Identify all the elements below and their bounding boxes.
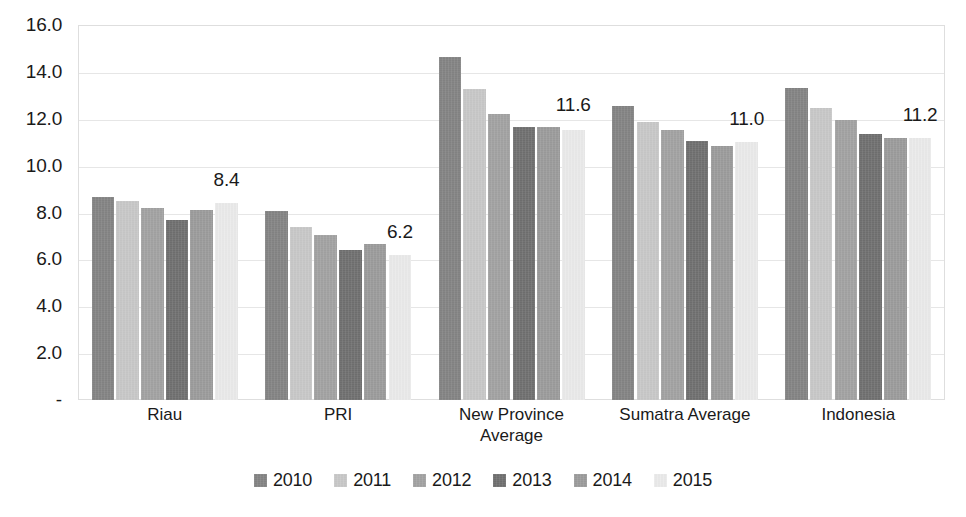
y-axis-tick-label: 10.0 bbox=[0, 155, 62, 177]
bar[interactable] bbox=[116, 201, 139, 400]
legend-item-2014[interactable]: 2014 bbox=[574, 470, 632, 491]
bar-texture bbox=[785, 88, 808, 400]
x-axis-category-label: New Province Average bbox=[437, 404, 587, 447]
bar-texture bbox=[265, 211, 288, 400]
legend-item-2011[interactable]: 2011 bbox=[334, 470, 391, 491]
legend-item-2015[interactable]: 2015 bbox=[654, 470, 712, 491]
bar-texture bbox=[562, 130, 585, 400]
bar-group bbox=[92, 25, 238, 400]
y-axis-tick-label: 6.0 bbox=[0, 248, 62, 270]
bar-texture bbox=[637, 122, 660, 400]
y-axis-tick-label: 16.0 bbox=[0, 14, 62, 36]
bar-chart: -2.04.06.08.010.012.014.016.0 RiauPRINew… bbox=[0, 0, 966, 517]
bar[interactable] bbox=[488, 114, 511, 400]
bar-group bbox=[785, 25, 931, 400]
bar[interactable] bbox=[190, 210, 213, 400]
bar[interactable] bbox=[314, 235, 337, 400]
bar[interactable] bbox=[835, 120, 858, 400]
bar[interactable] bbox=[810, 108, 833, 400]
bar[interactable] bbox=[785, 88, 808, 400]
x-axis-category-label: Indonesia bbox=[783, 404, 933, 425]
legend-swatch-texture bbox=[654, 474, 667, 487]
bar[interactable] bbox=[612, 106, 635, 400]
bar[interactable] bbox=[637, 122, 660, 400]
bar[interactable] bbox=[686, 141, 709, 400]
bar[interactable] bbox=[439, 57, 462, 400]
legend-item-2010[interactable]: 2010 bbox=[254, 470, 312, 491]
bar[interactable] bbox=[537, 127, 560, 400]
bar-texture bbox=[859, 134, 882, 400]
bar[interactable] bbox=[265, 211, 288, 400]
x-axis-category-labels: RiauPRINew Province AverageSumatra Avera… bbox=[78, 404, 945, 460]
legend-label: 2013 bbox=[512, 470, 551, 491]
bar-group bbox=[612, 25, 758, 400]
bar-texture bbox=[661, 130, 684, 400]
bar[interactable] bbox=[884, 138, 907, 401]
x-axis-category-label: Riau bbox=[90, 404, 240, 425]
bar-texture bbox=[314, 235, 337, 400]
data-label: 11.6 bbox=[556, 94, 591, 116]
bar[interactable] bbox=[859, 134, 882, 400]
bar-texture bbox=[463, 89, 486, 400]
bar-texture bbox=[686, 141, 709, 400]
bar-texture bbox=[290, 227, 313, 400]
bar[interactable] bbox=[290, 227, 313, 400]
legend-swatch-icon bbox=[654, 474, 667, 487]
bar-texture bbox=[835, 120, 858, 400]
y-axis-tick-label: 8.0 bbox=[0, 202, 62, 224]
bar[interactable] bbox=[166, 220, 189, 400]
bar-texture bbox=[166, 220, 189, 400]
bar-texture bbox=[389, 255, 412, 400]
bar[interactable] bbox=[562, 130, 585, 400]
legend-label: 2012 bbox=[432, 470, 471, 491]
bar[interactable] bbox=[661, 130, 684, 400]
bar[interactable] bbox=[389, 255, 412, 400]
y-axis-tick-label: 2.0 bbox=[0, 342, 62, 364]
legend-swatch-texture bbox=[334, 474, 347, 487]
bar-texture bbox=[884, 138, 907, 401]
y-axis-tick-label: - bbox=[0, 389, 62, 411]
bar[interactable] bbox=[735, 142, 758, 400]
legend-swatch-texture bbox=[493, 474, 506, 487]
bar-group bbox=[265, 25, 411, 400]
legend-swatch-texture bbox=[413, 474, 426, 487]
legend-label: 2014 bbox=[593, 470, 632, 491]
legend-label: 2010 bbox=[273, 470, 312, 491]
x-axis-category-label: PRI bbox=[263, 404, 413, 425]
y-axis: -2.04.06.08.010.012.014.016.0 bbox=[0, 0, 70, 410]
legend-swatch-icon bbox=[493, 474, 506, 487]
data-label: 8.4 bbox=[214, 169, 240, 191]
bar[interactable] bbox=[463, 89, 486, 400]
legend-swatch-icon bbox=[574, 474, 587, 487]
legend-item-2013[interactable]: 2013 bbox=[493, 470, 551, 491]
y-axis-tick-label: 12.0 bbox=[0, 108, 62, 130]
bar[interactable] bbox=[141, 208, 164, 400]
bar-texture bbox=[735, 142, 758, 400]
bar[interactable] bbox=[215, 203, 238, 400]
legend-swatch-icon bbox=[413, 474, 426, 487]
data-label: 11.2 bbox=[903, 104, 938, 126]
bar-texture bbox=[612, 106, 635, 400]
bar[interactable] bbox=[92, 197, 115, 400]
bar[interactable] bbox=[711, 146, 734, 400]
legend-swatch-icon bbox=[254, 474, 267, 487]
bar[interactable] bbox=[909, 138, 932, 401]
bar-texture bbox=[190, 210, 213, 400]
bar-texture bbox=[439, 57, 462, 400]
bar[interactable] bbox=[513, 127, 536, 400]
data-label: 11.0 bbox=[729, 108, 764, 130]
bar-texture bbox=[215, 203, 238, 400]
legend-swatch-texture bbox=[254, 474, 267, 487]
bar-texture bbox=[141, 208, 164, 400]
bar[interactable] bbox=[339, 250, 362, 400]
legend-item-2012[interactable]: 2012 bbox=[413, 470, 471, 491]
bar[interactable] bbox=[364, 244, 387, 400]
bar-texture bbox=[513, 127, 536, 400]
chart-legend: 201020112012201320142015 bbox=[0, 470, 966, 491]
data-label: 6.2 bbox=[387, 221, 413, 243]
x-axis-category-label: Sumatra Average bbox=[610, 404, 760, 425]
bar-texture bbox=[711, 146, 734, 400]
legend-swatch-texture bbox=[574, 474, 587, 487]
bar-texture bbox=[909, 138, 932, 401]
legend-swatch-icon bbox=[334, 474, 347, 487]
